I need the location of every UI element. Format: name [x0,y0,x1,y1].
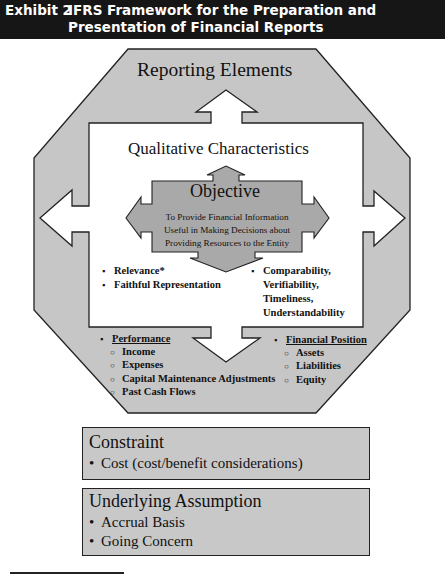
objective-line-3: Providing Resources to the Entity [157,237,297,250]
financial-position-title: Financial Position [274,334,367,347]
financial-position-list: Financial Position Assets Liabilities Eq… [274,334,367,387]
constraint-title: Constraint [89,432,164,453]
list-item: Timeliness, [251,292,345,306]
list-item: Past Cash Flows [100,386,275,400]
objective-title: Objective [190,181,260,202]
list-item: Going Concern [89,533,193,550]
constraint-box: Constraint Cost (cost/benefit considerat… [82,427,370,480]
list-item: Accrual Basis [89,514,185,531]
list-item: Assets [274,347,367,361]
list-item: Understandability [251,306,345,320]
qualitative-characteristics-label: Qualitative Characteristics [128,139,309,159]
underlying-assumption-title: Underlying Assumption [89,491,262,512]
list-item: Relevance* [102,264,221,278]
list-item: Cost (cost/benefit considerations) [89,455,303,472]
objective-line-1: To Provide Financial Information [157,211,297,224]
list-item: Comparability, [251,264,345,278]
performance-list: Performance Income Expenses Capital Main… [100,333,275,400]
list-item: Income [100,346,275,360]
list-item: Expenses [100,359,275,373]
list-item: Verifiability, [251,278,345,292]
objective-line-2: Useful in Making Decisions about [157,224,297,237]
reporting-elements-label: Reporting Elements [137,59,292,81]
footnote-rule [10,572,124,574]
underlying-assumption-box: Underlying Assumption Accrual Basis Goin… [82,488,370,556]
list-item: Equity [274,374,367,388]
fundamental-characteristics-list: Relevance* Faithful Representation [102,264,221,292]
performance-title: Performance [100,333,275,346]
list-item: Faithful Representation [102,278,221,292]
objective-description: To Provide Financial Information Useful … [157,211,297,250]
list-item: Liabilities [274,360,367,374]
enhancing-characteristics-list: Comparability, Verifiability, Timeliness… [251,264,345,320]
list-item: Capital Maintenance Adjustments [100,373,275,387]
